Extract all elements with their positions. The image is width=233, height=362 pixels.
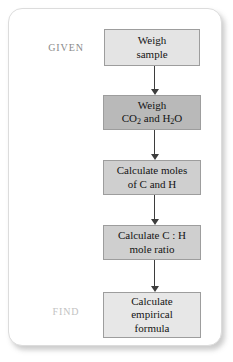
flow-step-calculate-moles: Calculate moles of C and H xyxy=(103,160,201,195)
find-label: FIND xyxy=(31,306,101,317)
arrow-stem xyxy=(154,66,155,90)
flow-step-line: Weigh xyxy=(138,34,166,48)
subscript: 2 xyxy=(170,117,174,126)
flowchart-figure: GIVEN FIND Weigh sample Weigh CO2 and H2… xyxy=(0,0,233,362)
given-label: GIVEN xyxy=(31,42,101,53)
flow-step-weigh-sample: Weigh sample xyxy=(104,29,200,66)
arrow-stem xyxy=(154,260,155,287)
arrow-connector-2 xyxy=(150,130,159,160)
figure-card: GIVEN FIND Weigh sample Weigh CO2 and H2… xyxy=(8,8,222,346)
flow-step-line: Weigh xyxy=(138,99,166,113)
flow-step-line: Calculate C : H xyxy=(118,229,186,243)
subscript: 2 xyxy=(137,117,141,126)
flow-step-line: sample xyxy=(136,48,167,62)
arrow-stem xyxy=(154,195,155,220)
arrow-connector-1 xyxy=(150,66,159,95)
flow-step-line: of C and H xyxy=(128,178,177,192)
flow-step-weigh-co2-h2o: Weigh CO2 and H2O xyxy=(103,95,201,130)
flow-step-line: formula xyxy=(135,322,170,336)
flow-step-calculate-empirical-formula: Calculate empirical formula xyxy=(103,292,201,338)
flow-step-line-formula: CO2 and H2O xyxy=(122,112,183,127)
formula-part: and H xyxy=(141,112,170,124)
flow-step-line: Calculate xyxy=(131,295,173,309)
formula-part: CO xyxy=(122,112,137,124)
flow-step-calculate-mole-ratio: Calculate C : H mole ratio xyxy=(103,225,201,260)
arrow-stem xyxy=(154,130,155,155)
arrow-connector-3 xyxy=(150,195,159,225)
formula-part: O xyxy=(174,112,182,124)
flow-step-line: Calculate moles xyxy=(117,164,188,178)
flow-step-line: mole ratio xyxy=(130,243,175,257)
arrow-connector-4 xyxy=(150,260,159,292)
flow-step-line: empirical xyxy=(131,308,173,322)
